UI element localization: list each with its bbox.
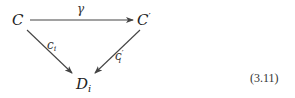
label-gamma: γ	[77, 2, 85, 16]
node-c: C	[12, 11, 24, 29]
commutative-diagram: C C′ Di γ ci c′i (3.11)	[0, 0, 295, 98]
node-c-prime: C′	[137, 11, 151, 29]
label-c-i: ci	[47, 38, 57, 53]
node-d-i: Di	[75, 75, 91, 94]
equation-number: (3.11)	[250, 71, 279, 85]
label-c-prime-i: c′i	[115, 48, 124, 65]
